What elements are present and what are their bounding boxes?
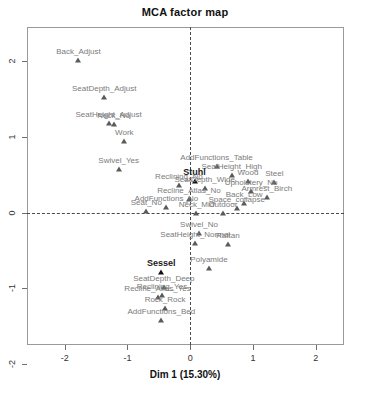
data-point-label: Rock_Rock: [145, 296, 186, 304]
data-point-marker: [101, 95, 107, 100]
data-point-label: Work: [115, 129, 134, 137]
data-point-marker: [111, 121, 117, 126]
y-tick-mark: [22, 137, 27, 138]
x-axis-label: Dim 1 (15.30%): [0, 369, 370, 380]
data-point-marker: [192, 240, 198, 245]
data-point-label: Swivel_No: [180, 221, 218, 229]
y-tick-mark: [22, 61, 27, 62]
x-tick-mark: [253, 345, 254, 350]
data-point-marker: [206, 265, 212, 270]
x-tick-mark: [190, 345, 191, 350]
data-point-label: Sessel: [147, 259, 176, 268]
data-point-label: Outdoor: [208, 201, 237, 209]
data-point-marker: [143, 208, 149, 213]
x-tick-mark: [65, 345, 66, 350]
y-tick-label: -1: [7, 281, 17, 295]
x-tick-label: 1: [241, 353, 265, 363]
data-point-marker: [220, 211, 226, 216]
data-point-label: Steel: [265, 170, 283, 178]
data-point-marker: [193, 210, 199, 215]
chart-title: MCA factor map: [0, 6, 370, 18]
data-point-label: Swivel_Yes: [98, 157, 139, 165]
data-point-marker: [163, 205, 169, 210]
data-point-marker: [158, 318, 164, 323]
x-tick-label: 2: [304, 353, 328, 363]
data-point-label: Seat_No: [131, 199, 162, 207]
data-point-label: AddFunctions_Table: [180, 154, 253, 162]
x-tick-mark: [127, 345, 128, 350]
x-tick-label: -2: [53, 353, 77, 363]
x-tick-mark: [316, 345, 317, 350]
data-point-label: SeatDepth_Adjust: [72, 85, 137, 93]
y-tick-mark: [22, 364, 27, 365]
data-point-label: Rattan: [216, 232, 240, 240]
y-tick-mark: [22, 213, 27, 214]
x-tick-label: 0: [178, 353, 202, 363]
data-point-label: Wood: [238, 169, 259, 177]
data-point-marker: [75, 57, 81, 62]
data-point-marker: [116, 167, 122, 172]
mca-factor-map-figure: MCA factor map -2-1012210-1-2 Back_Adjus…: [0, 0, 370, 400]
y-tick-label: 0: [7, 206, 17, 220]
y-tick-label: 2: [7, 54, 17, 68]
data-point-label: AddFunctions_Bed: [128, 308, 196, 316]
data-point-label: Neck_No: [97, 112, 130, 120]
data-point-marker: [121, 139, 127, 144]
y-tick-mark: [22, 288, 27, 289]
y-tick-label: 1: [7, 130, 17, 144]
x-tick-label: -1: [115, 353, 139, 363]
data-point-label: Back_Adjust: [56, 48, 100, 56]
horizontal-reference-line: [27, 213, 344, 214]
data-point-label: Recline_Atlas_Yes: [124, 285, 190, 293]
data-point-marker: [158, 269, 164, 274]
data-point-label: Polyamide: [190, 256, 227, 264]
data-point-marker: [225, 242, 231, 247]
